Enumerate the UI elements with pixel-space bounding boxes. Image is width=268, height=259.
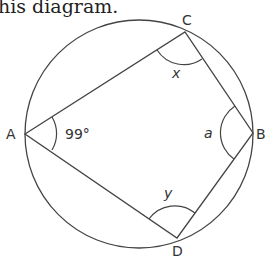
angle-arc-A <box>52 117 57 150</box>
diagram-figure: his diagram. A B C D 99° a x y <box>0 0 268 259</box>
quadrilateral-ACBD <box>25 32 253 238</box>
circle <box>25 20 253 248</box>
angle-label-D: y <box>163 185 173 201</box>
vertex-label-B: B <box>256 126 266 142</box>
angle-label-C: x <box>171 65 181 81</box>
angle-arc-B <box>220 106 235 159</box>
angle-label-B: a <box>204 125 213 141</box>
vertex-label-A: A <box>6 126 16 142</box>
angle-arc-D <box>149 206 195 219</box>
cyclic-quadrilateral-diagram: A B C D 99° a x y <box>0 0 268 259</box>
vertex-label-D: D <box>172 243 183 259</box>
angle-arc-C <box>157 50 202 65</box>
vertex-label-C: C <box>182 12 192 28</box>
angle-label-A: 99° <box>65 126 90 142</box>
